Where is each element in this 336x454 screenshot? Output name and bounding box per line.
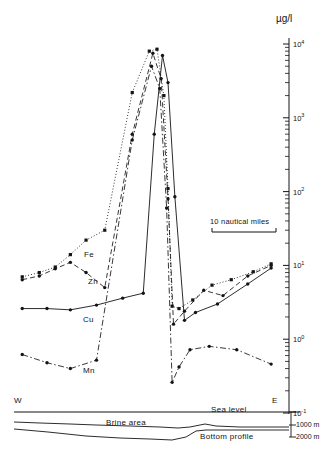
concentration-transect-chart: 10410310210110010-1 bbox=[0, 0, 336, 454]
y-axis-tick-label: 100 bbox=[293, 334, 304, 345]
data-point-fe bbox=[131, 91, 134, 94]
data-point-cu bbox=[121, 296, 124, 299]
data-point-cu bbox=[166, 81, 169, 84]
series-line-fe bbox=[22, 49, 271, 308]
y-axis-tick-label: 104 bbox=[293, 39, 304, 50]
data-point-fe bbox=[69, 253, 72, 256]
data-point-fe bbox=[21, 275, 24, 278]
data-point-cu bbox=[95, 303, 98, 306]
data-point-fe bbox=[171, 305, 174, 308]
data-point-cu bbox=[194, 311, 197, 314]
data-point-fe bbox=[38, 271, 41, 274]
data-point-cu bbox=[45, 307, 48, 310]
data-point-mn bbox=[170, 381, 173, 384]
data-point-zn bbox=[38, 274, 41, 277]
data-point-fe bbox=[103, 229, 106, 232]
data-point-zn bbox=[103, 286, 106, 289]
data-point-mn bbox=[208, 345, 211, 348]
data-point-zn bbox=[166, 197, 169, 200]
data-point-zn bbox=[54, 267, 57, 270]
data-point-fe bbox=[148, 50, 151, 53]
series-label-cu: Cu bbox=[83, 315, 94, 324]
scale-bar bbox=[212, 228, 276, 232]
data-point-cu bbox=[246, 282, 249, 285]
bottom-profile-label: Bottom profile bbox=[200, 432, 254, 441]
data-point-cu bbox=[153, 132, 156, 135]
data-point-fe bbox=[155, 48, 158, 51]
unit-label: µg/l bbox=[276, 13, 292, 24]
data-point-mn bbox=[69, 367, 72, 370]
data-point-fe bbox=[230, 278, 233, 281]
bathymetry-group bbox=[14, 412, 300, 440]
y-axis-tick-label: 101 bbox=[293, 260, 304, 271]
data-point-mn bbox=[177, 365, 180, 368]
data-point-mn bbox=[158, 87, 161, 90]
series-label-zn: Zn bbox=[88, 277, 98, 286]
data-point-mn bbox=[131, 138, 134, 141]
data-point-mn bbox=[150, 65, 153, 68]
data-point-cu bbox=[161, 54, 164, 57]
compass-east-label: E bbox=[272, 396, 277, 405]
data-point-cu bbox=[269, 266, 272, 269]
series-line-zn bbox=[22, 53, 271, 324]
data-point-fe bbox=[166, 187, 169, 190]
series-line-cu bbox=[22, 55, 271, 320]
data-point-fe bbox=[162, 94, 165, 97]
data-point-zn bbox=[246, 274, 249, 277]
series-label-fe: Fe bbox=[84, 250, 94, 259]
series-label-mn: Mn bbox=[83, 366, 95, 375]
depth-label-1000: 1000 m bbox=[296, 421, 319, 428]
data-point-zn bbox=[84, 271, 87, 274]
data-point-mn bbox=[269, 362, 272, 365]
data-point-zn bbox=[221, 294, 224, 297]
compass-west-label: W bbox=[14, 396, 22, 405]
data-point-zn bbox=[151, 52, 154, 55]
data-point-mn bbox=[188, 348, 191, 351]
data-point-cu bbox=[69, 308, 72, 311]
data-point-zn bbox=[172, 322, 175, 325]
data-point-fe bbox=[210, 284, 213, 287]
y-axis: 10410310210110010-1 bbox=[283, 38, 306, 418]
scale-bar-label: 10 nautical miles bbox=[210, 217, 269, 226]
data-point-cu bbox=[216, 302, 219, 305]
data-point-mn bbox=[235, 348, 238, 351]
depth-label-2000: 2000 m bbox=[296, 433, 319, 440]
data-point-cu bbox=[173, 195, 176, 198]
data-point-fe bbox=[84, 239, 87, 242]
figure-root: 10410310210110010-1 µg/l Fe Zn Cu Mn 10 … bbox=[0, 0, 336, 454]
data-point-zn bbox=[202, 289, 205, 292]
data-point-cu bbox=[183, 319, 186, 322]
data-point-mn bbox=[165, 206, 168, 209]
data-point-fe bbox=[252, 270, 255, 273]
data-point-zn bbox=[69, 261, 72, 264]
data-point-mn bbox=[21, 353, 24, 356]
y-axis-tick-label: 102 bbox=[293, 186, 304, 197]
data-point-mn bbox=[45, 361, 48, 364]
data-series-group bbox=[21, 48, 273, 384]
data-point-cu bbox=[21, 307, 24, 310]
sea-level-label: Sea level bbox=[211, 405, 247, 414]
y-axis-tick-label: 10-1 bbox=[293, 408, 306, 419]
data-point-fe bbox=[177, 307, 180, 310]
y-axis-tick-label: 103 bbox=[293, 112, 304, 123]
data-point-zn bbox=[21, 278, 24, 281]
brine-area-label: Brine area bbox=[106, 418, 146, 427]
data-point-mn bbox=[95, 358, 98, 361]
data-point-cu bbox=[142, 292, 145, 295]
